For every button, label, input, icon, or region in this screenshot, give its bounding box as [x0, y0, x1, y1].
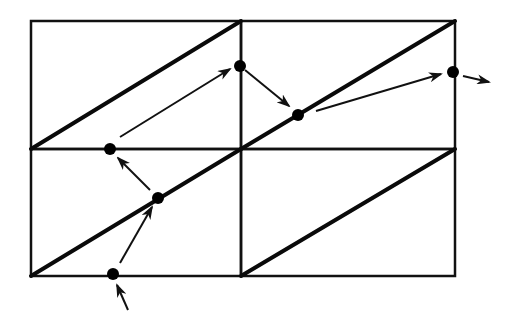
arrow-icon: [118, 158, 150, 190]
arrow-icon: [245, 70, 289, 106]
trajectory-points: [104, 60, 459, 280]
trajectory-point: [152, 192, 164, 204]
arrow-icon: [120, 69, 230, 137]
arrow-icon: [120, 207, 152, 263]
cell-diagonal-r1-c1: [241, 149, 455, 276]
arrow-icon: [117, 285, 128, 310]
trajectory-point: [234, 60, 246, 72]
trajectory-point: [107, 268, 119, 280]
trajectory-diagram: [0, 0, 507, 324]
arrow-icon: [463, 76, 489, 82]
trajectory-point: [292, 109, 304, 121]
cell-diagonal-r0-c1: [241, 21, 455, 149]
cell-diagonal-r0-c0: [31, 21, 241, 149]
cell-diagonal-r1-c0: [31, 149, 241, 276]
trajectory-point: [447, 66, 459, 78]
trajectory-point: [104, 143, 116, 155]
